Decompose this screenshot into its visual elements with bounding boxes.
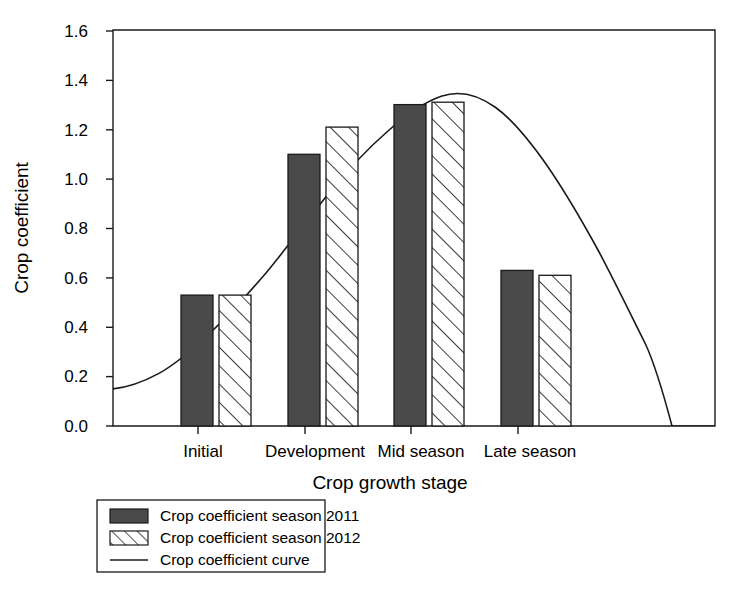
x-tick-label-late-season: Late season: [484, 442, 577, 461]
y-tick-label-2: 0.4: [64, 318, 88, 337]
y-tick-label-0: 0.0: [64, 417, 88, 436]
bar-2011-initial: [181, 295, 213, 426]
x-tick-label-mid-season: Mid season: [378, 442, 465, 461]
x-tick-label-development: Development: [265, 442, 365, 461]
legend-label-curve: Crop coefficient curve: [160, 551, 310, 568]
bar-2011-late-season: [501, 270, 533, 426]
chart-svg: Crop coefficient 0.0 0.2 0.4 0.6 0.8 1.0…: [0, 0, 738, 599]
bar-2011-mid-season: [394, 105, 426, 426]
y-tick-label-3: 0.6: [64, 269, 88, 288]
y-tick-label-7: 1.4: [64, 71, 88, 90]
legend-swatch-2011: [110, 509, 148, 523]
x-axis-title: Crop growth stage: [312, 472, 467, 493]
y-axis-title: Crop coefficient: [11, 161, 32, 293]
x-tick-label-initial: Initial: [183, 442, 223, 461]
legend-label-2011: Crop coefficient season 2011: [160, 507, 359, 524]
y-tick-label-6: 1.2: [64, 121, 88, 140]
bar-2012-development: [326, 127, 358, 426]
legend-swatch-2012: [110, 531, 148, 545]
bar-2012-late-season: [539, 275, 571, 426]
bar-2012-mid-season: [432, 102, 464, 426]
y-tick-label-8: 1.6: [64, 22, 88, 41]
y-tick-label-5: 1.0: [64, 170, 88, 189]
chart-legend: Crop coefficient season 2011 Crop coeffi…: [97, 500, 361, 572]
y-tick-label-1: 0.2: [64, 367, 88, 386]
bar-2012-initial: [219, 295, 251, 426]
legend-label-2012: Crop coefficient season 2012: [160, 529, 361, 546]
bar-2011-development: [288, 154, 320, 426]
chart-figure: Crop coefficient 0.0 0.2 0.4 0.6 0.8 1.0…: [0, 0, 738, 599]
y-tick-label-4: 0.8: [64, 219, 88, 238]
